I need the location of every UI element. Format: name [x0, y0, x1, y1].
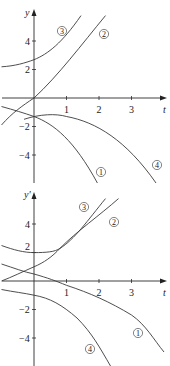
- y-tick-label: −4: [19, 150, 30, 161]
- svg-text:3: 3: [60, 27, 64, 36]
- t-axis-arrow-icon: [160, 96, 167, 101]
- y-tick-label: 2: [25, 241, 30, 252]
- t-axis-label: t: [163, 104, 166, 115]
- y-prime-axis-label: y': [23, 189, 31, 200]
- t-tick-label: 2: [97, 287, 102, 298]
- figure: 1 2 3 4 2 −2 −4 y t 3 2 1 4: [0, 0, 170, 366]
- curve-label-4: 4: [85, 344, 94, 354]
- curve-1: [2, 107, 98, 184]
- curve-4: [24, 115, 156, 183]
- curve-label-2: 2: [109, 217, 118, 227]
- curve-label-2: 2: [99, 29, 108, 39]
- y-axis-label: y: [24, 7, 30, 18]
- t-tick-label: 3: [129, 104, 134, 115]
- t-axis-label: t: [163, 287, 166, 298]
- svg-text:4: 4: [88, 345, 92, 354]
- curve-2: [2, 199, 119, 281]
- y-tick-label: −2: [19, 304, 30, 315]
- svg-text:2: 2: [102, 30, 106, 39]
- t-axis-arrow-icon: [160, 279, 167, 284]
- curve-label-1: 1: [96, 167, 105, 177]
- curve-label-3: 3: [57, 26, 66, 36]
- t-tick-label: 1: [64, 104, 69, 115]
- curve-label-3: 3: [79, 202, 88, 212]
- curve-3: [2, 199, 106, 253]
- y-prime-axis-arrow-icon: [32, 192, 37, 199]
- curve-label-1: 1: [133, 328, 142, 338]
- t-tick-label: 1: [64, 287, 69, 298]
- t-tick-label: 3: [129, 287, 134, 298]
- curve-4: [2, 290, 111, 366]
- svg-text:3: 3: [82, 203, 86, 212]
- curve-2: [2, 16, 106, 125]
- panel-y: 1 2 3 4 2 −2 −4 y t 3 2 1 4: [2, 7, 168, 183]
- svg-text:1: 1: [136, 329, 140, 338]
- svg-text:1: 1: [99, 168, 103, 177]
- y-axis-arrow-icon: [32, 9, 37, 16]
- curve-3: [2, 16, 82, 67]
- svg-text:2: 2: [112, 218, 116, 227]
- t-tick-label: 2: [97, 104, 102, 115]
- panel-y-prime: 1 2 3 4 2 −2 −4 y' t 3 2 1 4: [2, 189, 168, 366]
- y-tick-label: −4: [19, 333, 30, 344]
- svg-text:4: 4: [155, 161, 159, 170]
- y-tick-label: −2: [19, 121, 30, 132]
- y-tick-label: 4: [25, 219, 30, 230]
- y-tick-label: 4: [25, 36, 30, 47]
- curve-label-4: 4: [152, 160, 161, 170]
- y-tick-label: 2: [25, 64, 30, 75]
